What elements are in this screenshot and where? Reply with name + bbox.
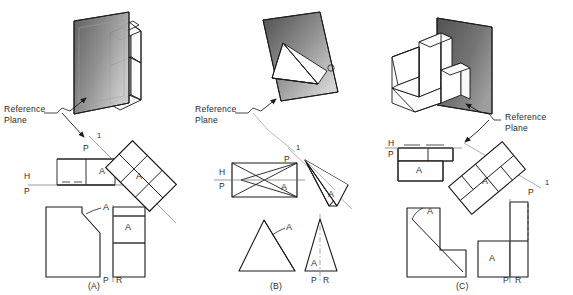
- surface-label-c-top: A: [416, 165, 422, 175]
- reference-plane-label-b: Reference Plane: [195, 104, 236, 125]
- fold-label-a-p: P: [83, 143, 89, 153]
- surface-label-a-front: A: [103, 202, 109, 212]
- figure-sheet: Reference Plane P 1 H P A A A A P R (A) …: [0, 0, 573, 295]
- fold-label-c-1: 1: [545, 178, 549, 188]
- fold-label-c-p: P: [528, 187, 534, 197]
- fold-label-b-h: H: [219, 167, 225, 177]
- panel-caption-c: (C): [456, 281, 469, 291]
- surface-label-b-top: A: [281, 182, 287, 192]
- fold-label-c-pr-r: R: [515, 275, 521, 285]
- fold-label-a-p2: P: [24, 186, 30, 196]
- panel-a-pictorial: [74, 12, 141, 114]
- panel-b-front-leader: [272, 228, 285, 235]
- surface-label-c-front: A: [427, 206, 433, 216]
- surface-label-a-aux: A: [136, 171, 142, 181]
- surface-label-a-side: A: [125, 222, 131, 232]
- panel-a-front-view: [46, 207, 100, 277]
- fold-label-b-p2: P: [219, 181, 225, 191]
- fold-label-b-pr-p: P: [311, 275, 317, 285]
- panel-c-top-view: [398, 148, 453, 181]
- panel-caption-a: (A): [88, 281, 100, 291]
- surface-label-a-top: A: [99, 166, 105, 176]
- fold-label-b-p: P: [284, 154, 290, 164]
- panel-a-front-leader: [86, 208, 101, 214]
- fold-label-c-p2: P: [388, 149, 394, 159]
- panel-b-pictorial: [263, 12, 338, 101]
- panel-b-leader: [235, 99, 295, 152]
- reference-plane-label-c: Reference Plane: [505, 112, 546, 133]
- reference-plane-label-a: Reference Plane: [4, 104, 45, 125]
- fold-label-a-1: 1: [97, 131, 101, 141]
- fold-label-a-h: H: [24, 171, 30, 181]
- panel-a-top-view: [57, 159, 115, 185]
- panel-b-side-view: [305, 214, 337, 281]
- panel-caption-b: (B): [270, 281, 282, 291]
- surface-label-c-side: A: [489, 253, 495, 263]
- surface-label-b-side: A: [311, 258, 317, 268]
- fold-label-c-pr-p: P: [503, 275, 509, 285]
- surface-label-b-aux: A: [328, 189, 334, 199]
- fold-label-b-1: 1: [296, 143, 300, 153]
- panel-c-pictorial: [392, 18, 492, 114]
- panel-a-side-view: [113, 205, 145, 282]
- panel-c-front-view: [407, 208, 466, 277]
- surface-label-b-front: A: [286, 222, 292, 232]
- fold-label-c-h: H: [388, 138, 394, 148]
- panel-c-side-view: [478, 199, 528, 283]
- fold-label-b-pr-r: R: [323, 275, 329, 285]
- surface-label-c-aux: A: [482, 176, 488, 186]
- fold-label-a-pr-r: R: [116, 275, 122, 285]
- fold-label-a-pr-p: P: [103, 275, 109, 285]
